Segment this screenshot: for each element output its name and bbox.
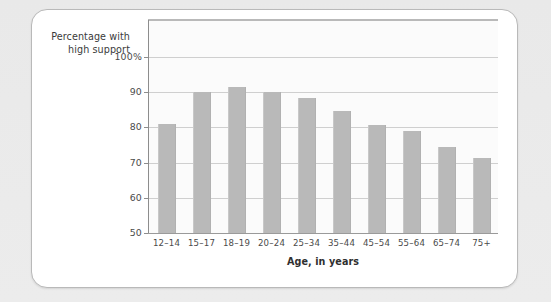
y-tick-label-50: 50 [102,227,142,238]
x-tick-label: 15–17 [184,238,219,248]
bar [438,147,456,233]
y-axis-tick-labels: 5060708090100% [98,0,142,302]
y-tick-label-90: 90 [102,86,142,97]
x-tick-label: 20–24 [254,238,289,248]
x-tick-label: 75+ [464,238,499,248]
y-tick-label-70: 70 [102,157,142,168]
y-tick-label-80: 80 [102,121,142,132]
x-axis-tick-labels: 12–1415–1718–1920–2425–3435–4445–5455–64… [148,238,498,252]
x-tick-label: 45–54 [359,238,394,248]
bar [473,158,491,233]
bar [403,131,421,233]
y-tick-label-60: 60 [102,192,142,203]
x-tick-label: 65–74 [429,238,464,248]
x-tick-label: 55–64 [394,238,429,248]
x-axis-title: Age, in years [148,256,498,267]
bar [368,125,386,233]
x-tick-label: 12–14 [149,238,184,248]
figure-container: Percentage with high support 50607080901… [0,0,551,302]
bar [228,87,246,233]
bar [158,124,176,233]
bar [298,98,316,233]
bar [333,111,351,233]
bar [193,92,211,233]
x-tick-label: 25–34 [289,238,324,248]
bar [263,92,281,233]
x-tick-label: 35–44 [324,238,359,248]
x-tick-label: 18–19 [219,238,254,248]
y-tick-label-100: 100% [102,51,142,62]
